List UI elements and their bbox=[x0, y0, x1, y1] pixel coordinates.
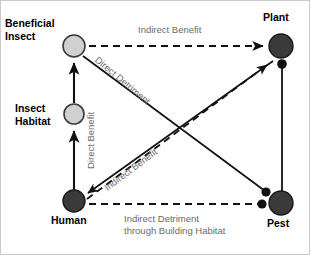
node-label-insect-habitat: Insect Habitat bbox=[15, 102, 51, 127]
diagram-canvas: Beneficial Insect Insect Habitat Human P… bbox=[0, 0, 310, 255]
node-pest[interactable] bbox=[269, 191, 293, 215]
node-label-pest: Pest bbox=[267, 217, 289, 230]
node-human[interactable] bbox=[63, 190, 85, 212]
node-insect-habitat[interactable] bbox=[64, 104, 84, 124]
blunt-end-dot-pest-from-human bbox=[257, 199, 266, 208]
edge-label-indirect-detriment: Indirect Detriment through Building Habi… bbox=[124, 213, 225, 237]
node-label-beneficial-insect: Beneficial Insect bbox=[5, 17, 55, 42]
blunt-end-dot-pest-from-insect bbox=[261, 187, 270, 196]
node-label-human: Human bbox=[51, 214, 87, 227]
edge-label-indirect-benefit-top: Indirect Benefit bbox=[138, 24, 201, 36]
node-plant[interactable] bbox=[269, 34, 293, 58]
blunt-end-dot-plant-from-pest bbox=[277, 59, 287, 69]
edge-label-direct-benefit: Direct Benefit bbox=[85, 112, 97, 169]
node-beneficial-insect[interactable] bbox=[63, 35, 85, 57]
node-label-plant: Plant bbox=[263, 11, 289, 24]
